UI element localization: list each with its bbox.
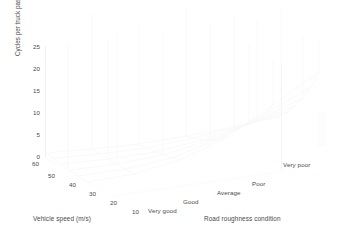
z-tick-label: 10: [26, 109, 40, 116]
x-tick-label-20: 20: [110, 200, 117, 206]
y-axis-title: Road roughness condition: [204, 216, 281, 222]
z-tick-label: 15: [26, 87, 40, 94]
surface-mesh: [46, 72, 320, 182]
z-axis-title: Cycles per truck passage: [14, 0, 21, 56]
z-tick-label: 5: [26, 131, 40, 138]
z-tick-label: 0: [26, 153, 40, 160]
x-axis-title: Vehicle speed (m/s): [33, 216, 91, 222]
z-tick-label: 20: [26, 65, 40, 72]
y-tick-label-very-good: Very good: [148, 208, 177, 214]
x-tick-label-50: 50: [48, 173, 55, 179]
y-tick-label-very-poor: Very poor: [283, 162, 310, 168]
surface-plot-canvas: [0, 0, 353, 238]
z-tick-label: 25: [26, 43, 40, 50]
y-tick-label-good: Good: [183, 199, 199, 205]
x-tick-label-40: 40: [69, 182, 76, 188]
x-tick-label-10: 10: [132, 209, 139, 215]
figure-artifact: [318, 112, 326, 146]
chart-figure: Cycles per truck passage 25 20 15 10 5 0…: [0, 0, 353, 238]
y-tick-label-average: Average: [217, 190, 241, 196]
x-tick-label-60: 60: [32, 161, 39, 167]
y-tick-label-poor: Poor: [252, 181, 265, 187]
x-tick-label-30: 30: [89, 191, 96, 197]
